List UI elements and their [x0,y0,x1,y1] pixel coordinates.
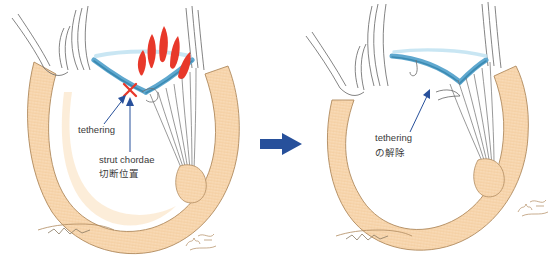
annulus-highlight [394,50,486,56]
surgical-illustration-figure: tethering strut chordae 切断位置 [0,0,555,280]
jet-2 [148,34,156,68]
panel-after-release: tethering の解除 [300,0,555,280]
anterior-leaflet [392,56,460,82]
label-tethering-left: tethering [78,124,115,135]
jet-3 [159,26,168,62]
right-arrow-icon [260,133,302,155]
artist-signature-left [186,234,216,250]
annulus-left [340,88,364,95]
tethering-leader-arrow [104,95,126,124]
label-release-jp: の解除 [375,147,405,158]
jet-1 [138,50,146,76]
mitral-leaflets-released [392,50,486,83]
atrium-outlines [306,2,501,90]
label-cut-position-jp: 切断位置 [99,168,139,179]
artist-signature-right [518,200,548,216]
transition-arrow [258,131,304,157]
panel-before-tethering: tethering strut chordae 切断位置 [0,0,300,280]
strut-chordae-leader-arrow [126,97,134,152]
cut-strut-chordae-stump [410,60,417,76]
release-leader-arrow [410,89,430,132]
label-strut-chordae: strut chordae [99,154,154,165]
label-tethering-right: tethering [375,132,412,143]
free-leaflet-edge [436,90,460,100]
jet-4 [170,36,180,69]
papillary-muscle [176,165,207,203]
